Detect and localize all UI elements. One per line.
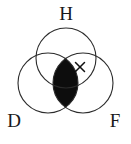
venn-diagram-figure: H D F <box>0 0 131 144</box>
venn-diagram-canvas: H D F <box>0 0 131 144</box>
set-label-f: F <box>110 110 121 131</box>
set-label-h: H <box>59 3 73 24</box>
x-mark-icon <box>76 63 85 72</box>
set-label-d: D <box>7 110 21 131</box>
